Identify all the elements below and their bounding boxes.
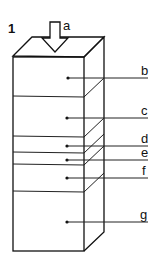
layer-f-leader: f [65,163,148,180]
layer-c-leader: c [65,103,148,120]
layer-label-d: d [141,131,148,146]
layer-b-leader: b [66,63,148,80]
layer-label-b: b [141,63,148,78]
layer-label-f: f [142,163,146,178]
layer-g-leader: g [65,207,148,224]
layer-label-e: e [141,145,148,160]
layer-boundaries [13,78,104,192]
layered-block-diagram: 1 a b c d e [0,0,160,262]
arrow-label: a [63,18,71,33]
figure-number: 1 [8,21,15,36]
layer-label-c: c [141,103,148,118]
layer-label-g: g [140,207,147,222]
layer-d-leader: d [65,131,148,148]
